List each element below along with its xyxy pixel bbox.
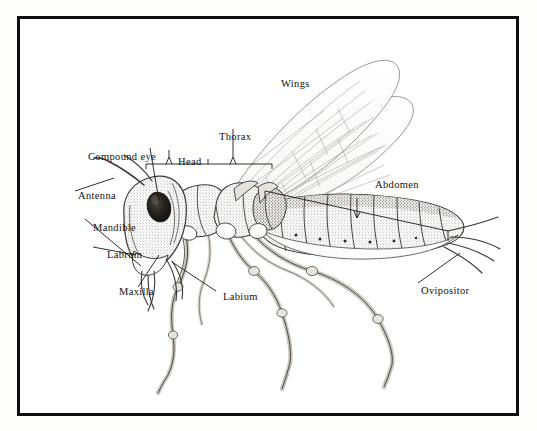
label-thorax: Thorax xyxy=(219,132,251,143)
label-head: Head xyxy=(178,157,202,168)
label-mandible: Mandible xyxy=(93,223,136,234)
label-labrum: Labrum xyxy=(107,250,142,261)
plate-border: Compound eye Head Thorax Wings Abdomen A… xyxy=(17,16,519,416)
label-ovipositor: Ovipositor xyxy=(421,286,469,297)
leader-ovipositor xyxy=(418,253,460,283)
label-maxilla: Maxilla xyxy=(119,287,154,298)
figure-plate: Compound eye Head Thorax Wings Abdomen A… xyxy=(0,0,537,431)
insect-illustration xyxy=(20,19,516,413)
label-antenna: Antenna xyxy=(78,191,116,202)
label-abdomen: Abdomen xyxy=(375,180,419,191)
label-wings: Wings xyxy=(281,79,310,90)
abdomen-group xyxy=(260,194,464,259)
plate-inner-area: Compound eye Head Thorax Wings Abdomen A… xyxy=(20,19,516,413)
label-labium: Labium xyxy=(223,292,258,303)
label-compound-eye: Compound eye xyxy=(88,152,156,163)
